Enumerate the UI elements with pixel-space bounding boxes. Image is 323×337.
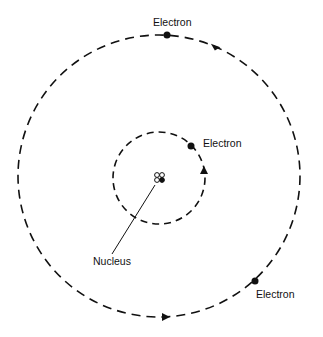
electron-top-label: Electron bbox=[153, 16, 192, 28]
electron-bottom-label: Electron bbox=[256, 288, 295, 300]
atom-diagram bbox=[0, 0, 323, 337]
electron-inner-label: Electron bbox=[203, 137, 242, 149]
electron-inner-dot bbox=[188, 143, 195, 150]
nucleus-icon bbox=[155, 173, 165, 183]
arrow-outer-top-icon bbox=[209, 44, 220, 52]
electron-bottom-dot bbox=[252, 278, 259, 285]
arrow-inner-icon bbox=[200, 166, 208, 174]
arrow-outer-bottom-icon bbox=[162, 313, 170, 321]
nucleus-label: Nucleus bbox=[93, 255, 131, 267]
nucleus-leader-line bbox=[112, 185, 155, 254]
electron-top-dot bbox=[164, 32, 171, 39]
